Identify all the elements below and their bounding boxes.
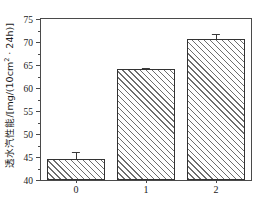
bar-0 <box>47 159 106 180</box>
y-axis-tick: 65 <box>36 65 41 66</box>
y-axis-minor-tick <box>38 146 41 147</box>
y-axis-tick: 55 <box>36 111 41 112</box>
x-axis-tick-label: 2 <box>214 184 219 196</box>
y-axis-minor-tick <box>38 169 41 170</box>
y-axis-tick: 50 <box>36 134 41 135</box>
y-axis-tick: 75 <box>36 19 41 20</box>
y-axis-tick: 70 <box>36 42 41 43</box>
x-axis-tick <box>146 180 147 183</box>
y-axis-title-superscript: 2 <box>3 57 11 61</box>
x-axis-tick <box>76 180 77 183</box>
y-axis-tick-label: 45 <box>24 152 34 164</box>
y-axis-title-tail: · 24h)] <box>4 23 15 58</box>
y-axis-tick-label: 60 <box>24 83 34 95</box>
y-axis-title-text: 透水汽性能/[mg/(10cm2 · 24h)] <box>4 23 15 167</box>
y-axis-minor-tick <box>38 54 41 55</box>
y-axis-tick-label: 55 <box>24 106 34 118</box>
y-axis-tick: 45 <box>36 157 41 158</box>
y-axis-tick-label: 75 <box>24 14 34 26</box>
x-axis-tick-label: 0 <box>74 184 79 196</box>
error-bar-cap-0 <box>72 152 80 153</box>
y-axis-title-main: 透水汽性能/[mg/(10cm <box>4 62 15 168</box>
y-axis-tick-label: 40 <box>24 175 34 187</box>
bar-1 <box>117 69 176 180</box>
y-axis-minor-tick <box>38 123 41 124</box>
y-axis-tick-label: 50 <box>24 129 34 141</box>
bar-2 <box>187 39 246 180</box>
error-bar-cap-2 <box>212 34 220 35</box>
y-axis-tick: 60 <box>36 88 41 89</box>
y-axis-tick-label: 65 <box>24 60 34 72</box>
x-axis-tick <box>216 180 217 183</box>
error-bar-0 <box>76 152 77 159</box>
chart-figure: 透水汽性能/[mg/(10cm2 · 24h)] 404550556065707… <box>0 0 264 208</box>
plot-area: 4045505560657075012 <box>40 18 252 181</box>
y-axis-minor-tick <box>38 77 41 78</box>
x-axis-tick-label: 1 <box>144 184 149 196</box>
y-axis-title: 透水汽性能/[mg/(10cm2 · 24h)] <box>0 0 18 190</box>
error-bar-cap-1 <box>142 68 150 69</box>
y-axis-tick: 40 <box>36 180 41 181</box>
y-axis-minor-tick <box>38 100 41 101</box>
y-axis-minor-tick <box>38 31 41 32</box>
y-axis-tick-label: 70 <box>24 37 34 49</box>
